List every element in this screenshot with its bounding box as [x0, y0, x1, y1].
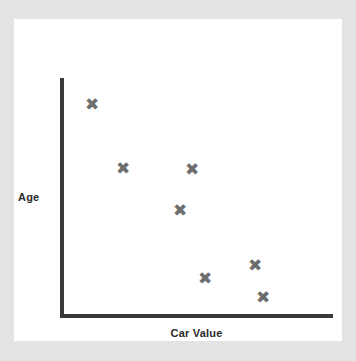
x-cross-marker-icon: ✖	[114, 159, 132, 177]
y-axis-label: Age	[18, 191, 56, 203]
plot-panel: ✖✖✖✖✖✖✖ Age Car Value	[14, 19, 342, 341]
x-cross-marker-icon: ✖	[246, 256, 264, 274]
plot-area: ✖✖✖✖✖✖✖ Age Car Value	[14, 19, 342, 341]
scatter-plot-figure: ✖✖✖✖✖✖✖ Age Car Value	[0, 0, 356, 361]
clipped-title-sliver	[0, 0, 356, 6]
x-cross-marker-icon: ✖	[183, 160, 201, 178]
x-cross-marker-icon: ✖	[83, 95, 101, 113]
x-axis-label: Car Value	[60, 327, 333, 339]
x-cross-marker-icon: ✖	[171, 201, 189, 219]
y-axis-line	[60, 78, 64, 318]
x-cross-marker-icon: ✖	[196, 269, 214, 287]
x-cross-marker-icon: ✖	[254, 288, 272, 306]
x-axis-line	[60, 314, 333, 318]
